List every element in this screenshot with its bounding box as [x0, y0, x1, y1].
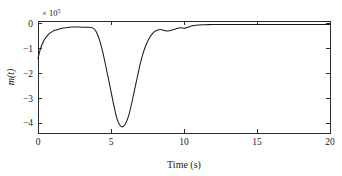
y-axis-exponent-label: × 105 [42, 8, 60, 18]
figure-container: 05101520 0−1−2−3−4 × 105 Time (s) m(t) [0, 0, 342, 176]
y-tick-label: −3 [23, 94, 33, 104]
plot-area-background [38, 21, 330, 133]
x-tick-label: 10 [179, 137, 189, 147]
x-tick-label: 15 [252, 137, 262, 147]
x-tick-label: 20 [325, 137, 335, 147]
y-tick-label: −4 [23, 118, 33, 128]
y-axis-tick-labels: 0−1−2−3−4 [23, 19, 33, 128]
y-tick-label: 0 [28, 19, 33, 29]
line-chart: 05101520 0−1−2−3−4 × 105 Time (s) m(t) [0, 0, 342, 176]
y-axis-title: m(t) [5, 68, 17, 85]
y-tick-label: −1 [23, 44, 33, 54]
x-tick-label: 5 [109, 137, 114, 147]
x-axis-title: Time (s) [167, 159, 201, 171]
x-axis-tick-labels: 05101520 [36, 137, 335, 147]
x-tick-label: 0 [36, 137, 41, 147]
y-tick-label: −2 [23, 69, 33, 79]
